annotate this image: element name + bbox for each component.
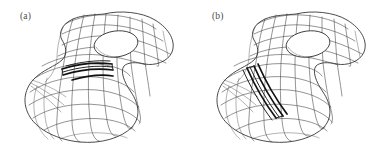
panel-b: (b) xyxy=(192,0,384,156)
panel-a: (a) xyxy=(0,0,192,156)
figure-container: (a) xyxy=(0,0,384,156)
panel-a-wireframe xyxy=(0,0,192,156)
panel-b-wireframe xyxy=(192,0,384,156)
